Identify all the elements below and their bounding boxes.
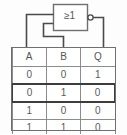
truth-table: A B Q 0 0 1 0 1 0 1 0 0 [11,47,116,134]
table-row: 1 0 0 [12,102,115,120]
cell-b: 1 [46,120,80,135]
cell-a: 1 [12,120,46,135]
cell-b: 1 [46,84,80,102]
cell-q: 0 [81,84,115,102]
header-cell-q: Q [81,48,115,67]
cell-a: 0 [12,67,46,85]
circuit-diagram: ≥1 [0,0,127,48]
cell-q: 0 [81,120,115,135]
table-row: 1 1 0 [12,120,115,135]
header-cell-b: B [46,48,80,67]
cell-q: 0 [81,102,115,120]
table-row-highlighted: 0 1 0 [12,84,115,102]
truth-table-container: A B Q 0 0 1 0 1 0 1 0 0 [11,47,116,131]
table-header-row: A B Q [12,48,115,67]
input-a-wire [27,15,54,48]
cell-b: 0 [46,102,80,120]
cell-a: 1 [12,102,46,120]
output-q-wire [93,18,103,48]
header-cell-a: A [12,48,46,67]
table-row: 0 0 1 [12,67,115,85]
cell-a: 0 [12,84,46,102]
cell-q: 1 [81,67,115,85]
nor-gate-truth-table-figure: ≥1 A B Q 0 0 1 [0,0,127,134]
cell-b: 0 [46,67,80,85]
gate-symbol-label: ≥1 [64,10,75,21]
inversion-bubble-icon [88,15,93,20]
